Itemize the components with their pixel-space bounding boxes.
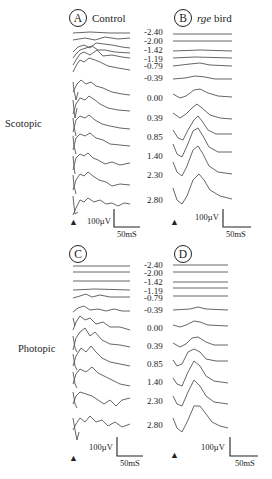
row-label-photopic: Photopic [18,343,56,354]
panel-c-header: C [70,246,87,263]
scale-amplitude-label: 100µV [87,216,112,226]
scale-amplitude-label: 100µV [89,442,114,452]
intensity-label: 0.00 [147,93,163,103]
intensity-labels-photopic: -2.40 -2.00 -1.42 -1.19 -0.79 -0.39 0.00… [144,260,163,430]
scale-bar-d: 100µV 50mS [201,437,258,468]
panel-letter-d: D [179,248,187,260]
erg-figure: Scotopic Photopic A Control B rge bird C… [0,0,272,479]
scale-time-label: 50mS [117,229,137,239]
scale-bar-a: 100µV 50mS [87,209,140,239]
stimulus-marker-icon: ▲ [69,217,78,227]
intensity-label: 0.85 [147,132,163,142]
intensity-label: 1.40 [147,151,163,161]
panel-d-traces [173,265,228,432]
scale-amplitude-label: 100µV [201,442,226,452]
panel-b-title-rest: bird [211,12,232,24]
panel-d-header: D [175,246,192,263]
row-label-scotopic: Scotopic [5,118,42,129]
intensity-label: 0.00 [147,323,163,333]
panel-letter-b: B [179,12,187,24]
intensity-label: 2.30 [147,170,163,180]
panel-a-title: Control [92,12,126,24]
panel-b-title-italic: rge [197,12,211,24]
stimulus-marker-icon: ▲ [170,217,179,227]
intensity-label: -0.79 [144,293,163,303]
intensity-label: 2.80 [147,420,163,430]
panel-a-traces [73,32,130,215]
stimulus-marker-icon: ▲ [170,450,179,460]
intensity-label: -0.39 [144,305,163,315]
intensity-label: 0.85 [147,359,163,369]
intensity-label: -0.39 [144,73,163,83]
panel-b-traces [173,34,232,204]
intensity-label: 1.40 [147,377,163,387]
panel-letter-a: A [74,12,83,24]
scale-bar-b: 100µV 50mS [195,209,251,239]
panel-a-header: A Control [70,10,126,27]
panel-b-header: B rge bird [175,10,233,27]
intensity-label: 2.80 [147,195,163,205]
panel-letter-c: C [74,248,82,260]
intensity-label: -0.79 [144,61,163,71]
stimulus-marker-icon: ▲ [69,453,78,463]
intensity-label: 0.39 [147,113,163,123]
intensity-label: 2.30 [147,396,163,406]
intensity-labels-scotopic: -2.40 -2.00 -1.42 -1.19 -0.79 -0.39 0.00… [144,27,163,205]
scale-time-label: 50mS [235,458,255,468]
panel-c-traces [73,266,130,440]
scale-time-label: 50mS [226,229,246,239]
panel-b-title: rge bird [197,12,232,24]
scale-bar-c: 100µV 50mS [89,437,143,468]
scale-time-label: 50mS [120,458,140,468]
intensity-label: 0.39 [147,341,163,351]
scale-amplitude-label: 100µV [195,212,220,222]
